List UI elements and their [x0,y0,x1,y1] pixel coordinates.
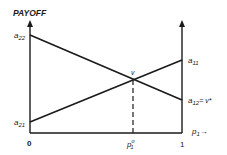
label-a11: a11 [188,56,199,66]
left-axis-arrow-icon [27,20,33,27]
y-axis-label: PAYOFF [13,8,47,18]
payoff-diagram: PAYOFF a22 a21 a11 a12= v* v 0 1 po1 p1→ [0,0,227,155]
label-a12-v-star: a12= v* [188,96,212,106]
x-end-label: 1 [180,140,185,149]
x-axis-label: p1→ [191,127,208,137]
origin-label: 0 [27,139,32,148]
label-a22: a22 [14,31,26,41]
equilibrium-x-label: po1 [126,138,135,150]
intersection-label-v: v [131,69,135,76]
label-a21: a21 [14,118,25,128]
right-axis-arrow-icon [179,20,185,27]
